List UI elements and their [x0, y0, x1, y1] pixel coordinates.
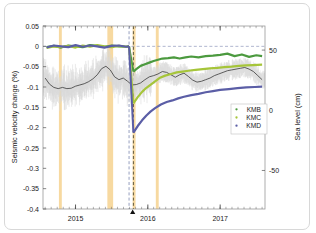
x-tick-label: 2017	[212, 215, 228, 222]
sea-level-noise	[43, 47, 265, 111]
y-axis-label: Seismic velocity change (%)	[10, 71, 19, 163]
x-tick-label: 2015	[68, 215, 84, 222]
y2-tick-label: -50	[269, 167, 279, 174]
y2-axis-label: Sea level (cm)	[293, 93, 302, 140]
legend-label-kmc: KMC	[246, 114, 261, 121]
highlight-band	[156, 26, 159, 209]
event-marker-triangle	[130, 210, 135, 215]
chart-legend[interactable]: KMBKMCKMD	[231, 104, 267, 134]
legend-marker-kmb	[235, 108, 237, 110]
legend-marker-kmc	[235, 116, 237, 118]
y-tick-label: -0.25	[23, 145, 39, 152]
y2-tick-label: 0	[269, 107, 273, 114]
y-tick-label: -0.05	[23, 63, 39, 70]
y-tick-label: -0.4	[27, 206, 39, 213]
y-tick-label: -0.3	[27, 165, 39, 172]
highlight-band	[59, 26, 62, 209]
y2-tick-label: 50	[269, 47, 277, 54]
figure-card: 0.050-0.05-0.1-0.15-0.2-0.25-0.3-0.35-0.…	[4, 3, 310, 230]
legend-label-kmd: KMD	[246, 122, 261, 129]
legend-label-kmb: KMB	[247, 106, 262, 113]
seismic-velocity-chart: 0.050-0.05-0.1-0.15-0.2-0.25-0.3-0.35-0.…	[5, 4, 310, 230]
y-tick-label: -0.1	[27, 84, 39, 91]
chart-plot-area: 0.050-0.05-0.1-0.15-0.2-0.25-0.3-0.35-0.…	[5, 4, 310, 230]
y-tick-label: -0.2	[27, 124, 39, 131]
y-tick-label: -0.35	[23, 185, 39, 192]
y-tick-label: -0.15	[23, 104, 39, 111]
y-tick-label: 0	[35, 43, 39, 50]
legend-marker-kmd	[235, 125, 237, 127]
x-tick-label: 2016	[140, 215, 156, 222]
y-tick-label: 0.05	[25, 23, 39, 30]
